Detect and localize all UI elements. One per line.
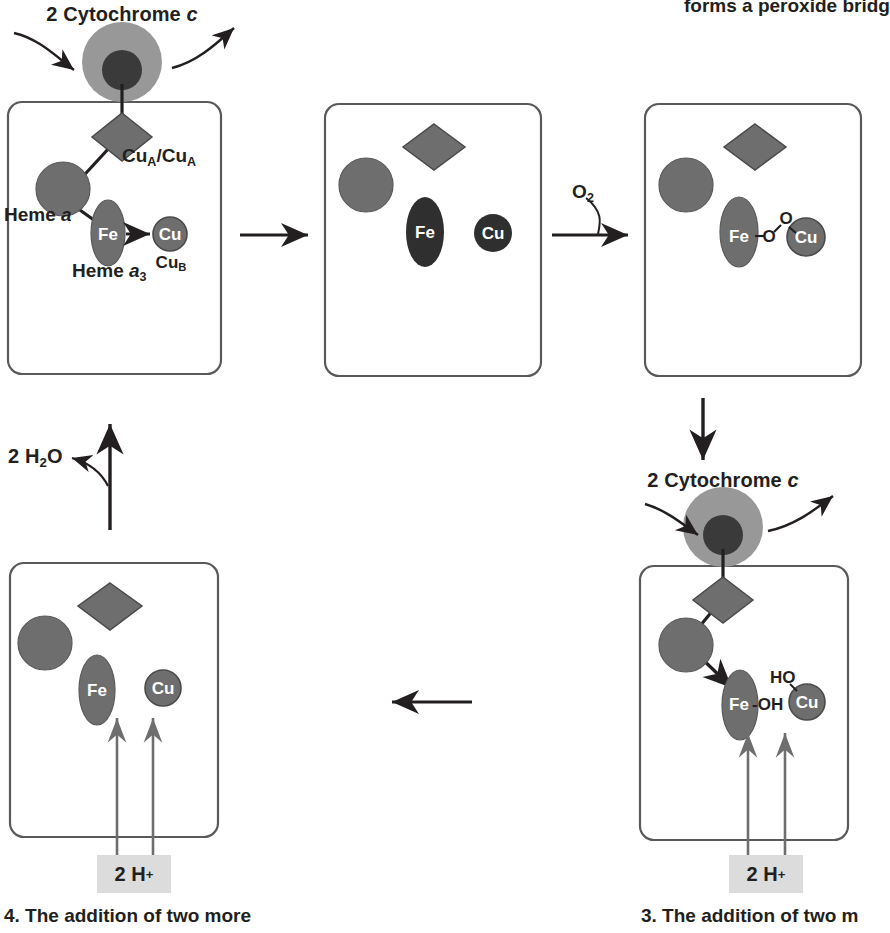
cua-sub-b: A <box>187 155 196 169</box>
cu-label-1: Cu <box>159 226 182 243</box>
peroxide-caption-fragment: forms a peroxide bridg <box>684 0 890 15</box>
cytc-out-arrow-1 <box>172 28 234 68</box>
heme-a-circle-2 <box>339 158 393 212</box>
fe-label-1: Fe <box>98 226 118 243</box>
water-tail: O <box>47 445 63 467</box>
water-label: 2 H2O <box>8 446 63 469</box>
heme-a-circle-4 <box>659 618 713 672</box>
fe-label-5: Fe <box>87 682 107 699</box>
heme-a-circle-3 <box>659 158 713 212</box>
fe-label-3: Fe <box>729 228 749 245</box>
cua-cua-diamond-2 <box>403 124 465 170</box>
water-text: 2 H <box>8 445 39 467</box>
proton-text-left: 2 H <box>115 863 146 886</box>
cua-text-a: Cu <box>122 145 147 166</box>
cytochrome-c-text-1: 2 Cytochrome <box>46 3 186 25</box>
cytochrome-c-italic-1: c <box>187 3 198 25</box>
o-label-3b: O <box>779 210 792 227</box>
fe-label-2: Fe <box>415 224 435 241</box>
fe-label-4: Fe <box>729 696 749 713</box>
proton-sup-left: + <box>146 867 154 882</box>
cytc-out-arrow-2 <box>768 496 833 531</box>
o2-sub: 2 <box>587 191 594 205</box>
cub-text: Cu <box>156 253 179 272</box>
panel-5-group <box>10 563 218 855</box>
heme-a-label-1: Heme a <box>4 205 72 224</box>
heme-a3-label-1: Heme a3 <box>72 261 147 283</box>
cua-cua-diamond-3 <box>724 124 786 170</box>
cub-label-1: CuB <box>156 254 187 273</box>
water-release-curve <box>72 458 108 486</box>
cu-label-4: Cu <box>796 694 819 711</box>
heme-a-word: Heme <box>4 204 56 225</box>
cytochrome-c-label-1: 2 Cytochrome c <box>46 4 197 24</box>
proton-text-right: 2 H <box>747 863 778 886</box>
o2-label: O2 <box>572 182 594 204</box>
panel-1-group <box>8 22 234 374</box>
cua-cua-label-1: CuA/CuA <box>122 146 196 168</box>
proton-box-right: 2 H+ <box>729 855 803 893</box>
cub-sub: B <box>178 261 186 273</box>
cytc-in-arrow-1 <box>14 33 74 70</box>
heme-a-letter: a <box>61 204 72 225</box>
cu-label-2: Cu <box>482 225 505 242</box>
ho-label-4: HO <box>770 669 796 686</box>
cu-label-5: Cu <box>152 680 175 697</box>
water-sub: 2 <box>39 455 46 470</box>
panel-3-group <box>645 104 861 376</box>
caption-right: 3. The addition of two m <box>641 906 858 925</box>
proton-sup-right: + <box>778 867 786 882</box>
heme-a3-sub: 3 <box>140 270 147 284</box>
cua-cua-diamond-4 <box>693 577 753 623</box>
cytochrome-c-text-2: 2 Cytochrome <box>647 469 787 491</box>
cu-label-3: Cu <box>795 229 818 246</box>
cytochrome-c-label-2: 2 Cytochrome c <box>647 470 798 490</box>
oh-label-4: -OH <box>752 696 783 713</box>
caption-left: 4. The addition of two more <box>4 906 251 925</box>
cua-cua-diamond-5 <box>78 583 142 630</box>
o-label-3a: O <box>762 228 775 245</box>
heme-a3-word: Heme <box>72 260 124 281</box>
cytochrome-c-italic-2: c <box>788 469 799 491</box>
heme-a3-letter: a <box>129 260 140 281</box>
heme-a-circle-5 <box>18 616 72 670</box>
panel-4-group <box>640 487 848 855</box>
cua-text-b: Cu <box>162 145 187 166</box>
o2-text: O <box>572 181 587 202</box>
proton-box-left: 2 H+ <box>97 855 171 893</box>
